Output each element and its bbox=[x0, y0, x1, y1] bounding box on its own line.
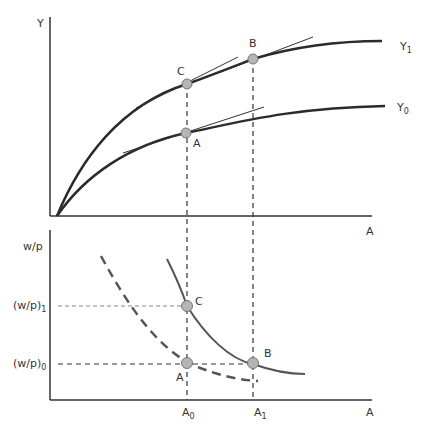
bottom-x-axis-label: A bbox=[366, 407, 374, 418]
point-c-top bbox=[182, 79, 192, 89]
solid-demand-curve bbox=[167, 259, 305, 374]
point-a-top-label: A bbox=[193, 138, 201, 149]
wp0-tick-label: (w/p)0 bbox=[13, 358, 46, 372]
wp1-main: (w/p) bbox=[13, 299, 41, 312]
dashed-demand-curve bbox=[101, 256, 258, 381]
a0-sub: 0 bbox=[190, 412, 195, 421]
point-c-bottom-label: C bbox=[195, 296, 203, 307]
point-c-top-label: C bbox=[177, 66, 185, 77]
point-a-bottom bbox=[182, 358, 193, 369]
point-a-bottom-label: A bbox=[176, 372, 184, 383]
bottom-panel bbox=[50, 230, 372, 400]
y1-label-sub: 1 bbox=[407, 46, 412, 55]
wp1-sub: 1 bbox=[41, 305, 46, 314]
top-y-axis-label: Y bbox=[37, 18, 44, 29]
a0-tick-label: A0 bbox=[182, 407, 195, 421]
point-c-bottom bbox=[182, 301, 193, 312]
tangent-line-b bbox=[218, 37, 313, 73]
top-x-axis-label: A bbox=[366, 226, 374, 237]
a1-tick-label: A1 bbox=[254, 407, 267, 421]
y1-label-main: Y bbox=[400, 40, 407, 53]
point-b-bottom-label: B bbox=[264, 348, 272, 359]
y0-label-main: Y bbox=[397, 101, 404, 114]
y1-curve-label: Y1 bbox=[400, 41, 412, 55]
y0-curve-label: Y0 bbox=[397, 102, 409, 116]
a1-sub: 1 bbox=[262, 412, 267, 421]
point-a-top bbox=[181, 128, 191, 138]
a0-main: A bbox=[182, 406, 190, 419]
point-b-top bbox=[248, 54, 258, 64]
wp0-main: (w/p) bbox=[13, 357, 41, 370]
y0-label-sub: 0 bbox=[404, 107, 409, 116]
y0-curve bbox=[57, 106, 385, 216]
y1-curve bbox=[57, 41, 382, 216]
point-b-bottom bbox=[248, 358, 259, 369]
a1-main: A bbox=[254, 406, 262, 419]
wp1-tick-label: (w/p)1 bbox=[13, 300, 46, 314]
diagram-canvas bbox=[0, 0, 423, 431]
bottom-y-axis-label: w/p bbox=[23, 241, 43, 252]
point-b-top-label: B bbox=[249, 38, 257, 49]
wp0-sub: 0 bbox=[41, 363, 46, 372]
